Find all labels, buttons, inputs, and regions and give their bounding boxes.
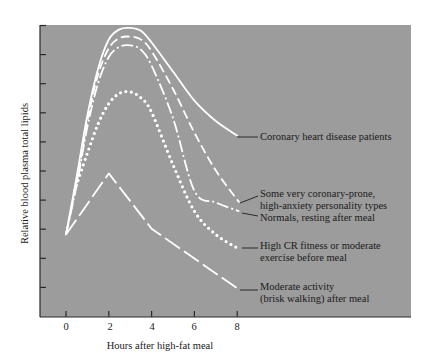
x-tick-label: 0: [56, 321, 76, 332]
plot-area: [40, 25, 411, 317]
legend-normals: Normals, resting after meal: [260, 212, 375, 224]
x-axis-label: Hours after high-fat meal: [70, 340, 250, 351]
x-tick-label: 4: [142, 321, 162, 332]
x-tick-label: 8: [227, 321, 247, 332]
y-axis-label: Relative blood plasma total lipids: [19, 74, 30, 274]
legend-line: exercise before meal: [260, 252, 381, 264]
legend-line: Moderate activity: [260, 281, 369, 293]
legend-line: (brisk walking) after meal: [260, 293, 369, 305]
legend-chd: Coronary heart disease patients: [260, 131, 392, 143]
legend-high-cr: High CR fitness or moderate exercise bef…: [260, 240, 381, 264]
legend-line: High CR fitness or moderate: [260, 240, 381, 252]
legend-line: high-anxiety personality types: [260, 200, 387, 212]
x-tick-label: 6: [184, 321, 204, 332]
x-tick-label: 2: [100, 321, 120, 332]
legend-line: Some very coronary-prone,: [260, 188, 387, 200]
legend-line: Normals, resting after meal: [260, 212, 375, 224]
legend-coronary-prone: Some very coronary-prone, high-anxiety p…: [260, 188, 387, 212]
legend-line: Coronary heart disease patients: [260, 131, 392, 143]
legend-moderate-activity: Moderate activity (brisk walking) after …: [260, 281, 369, 305]
